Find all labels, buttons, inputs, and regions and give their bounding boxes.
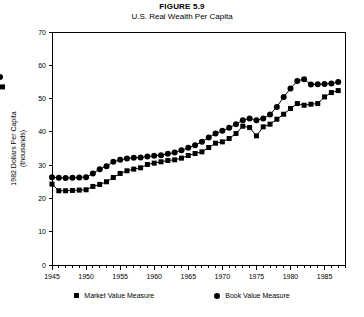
chart-legend: Market Value Measure Book Value Measure bbox=[0, 292, 364, 299]
x-axis-tick-label: 1950 bbox=[78, 273, 94, 280]
circle-marker-icon bbox=[253, 117, 259, 123]
circle-marker-icon bbox=[117, 157, 123, 163]
square-marker-icon bbox=[315, 101, 320, 106]
circle-marker-icon bbox=[322, 81, 328, 87]
circle-marker-icon bbox=[287, 86, 293, 92]
square-marker-icon bbox=[90, 184, 95, 189]
square-marker-icon bbox=[240, 124, 245, 129]
y-axis-title-line1: 1982 Dollars Per Capita bbox=[10, 111, 18, 185]
square-marker-icon bbox=[74, 293, 79, 298]
x-axis-tick-label: 1955 bbox=[112, 273, 128, 280]
square-marker-icon bbox=[70, 188, 75, 193]
circle-marker-icon bbox=[247, 116, 253, 122]
square-marker-icon bbox=[302, 103, 307, 108]
circle-marker-icon bbox=[219, 128, 225, 134]
x-axis-tick-label: 1985 bbox=[317, 273, 333, 280]
circle-marker-icon bbox=[335, 79, 341, 85]
square-marker-icon bbox=[261, 124, 266, 129]
square-marker-icon bbox=[288, 106, 293, 111]
circle-marker-icon bbox=[49, 174, 55, 180]
square-marker-icon bbox=[295, 101, 300, 106]
y-axis-tick-label: 70 bbox=[38, 29, 46, 36]
circle-marker-icon bbox=[199, 139, 205, 145]
square-marker-icon bbox=[227, 136, 232, 141]
circle-marker-icon bbox=[69, 175, 75, 181]
circle-marker-icon bbox=[178, 147, 184, 153]
legend-label-market-value: Market Value Measure bbox=[84, 292, 154, 299]
y-axis-tick-label: 0 bbox=[42, 262, 46, 269]
square-marker-icon bbox=[145, 162, 150, 167]
circle-marker-icon bbox=[104, 163, 110, 169]
circle-marker-icon bbox=[131, 155, 137, 161]
circle-marker-icon bbox=[90, 170, 96, 176]
series-line-book-value bbox=[52, 79, 338, 178]
circle-marker-icon bbox=[260, 116, 266, 122]
circle-marker-icon bbox=[63, 175, 69, 181]
square-marker-icon bbox=[220, 139, 225, 144]
square-marker-icon bbox=[281, 112, 286, 117]
y-axis-title-line2: (thousands) bbox=[19, 130, 27, 167]
square-marker-icon bbox=[336, 88, 341, 93]
y-axis-tick-label: 60 bbox=[38, 62, 46, 69]
circle-marker-icon bbox=[158, 152, 164, 158]
square-marker-icon bbox=[233, 131, 238, 136]
circle-marker-icon bbox=[274, 104, 280, 110]
square-marker-icon bbox=[193, 151, 198, 156]
circle-marker-icon bbox=[328, 81, 334, 87]
x-axis-tick-label: 1945 bbox=[44, 273, 60, 280]
square-marker-icon bbox=[254, 133, 259, 138]
circle-marker-icon bbox=[308, 82, 314, 88]
square-marker-icon bbox=[131, 167, 136, 172]
circle-marker-icon bbox=[124, 155, 130, 161]
square-marker-icon bbox=[56, 188, 61, 193]
circle-marker-icon bbox=[144, 153, 150, 159]
square-marker-icon bbox=[172, 157, 177, 162]
square-marker-icon bbox=[63, 188, 68, 193]
square-marker-icon bbox=[0, 84, 5, 89]
circle-marker-icon bbox=[0, 74, 3, 80]
circle-marker-icon bbox=[138, 154, 144, 160]
circle-marker-icon bbox=[185, 145, 191, 151]
circle-marker-icon bbox=[213, 131, 219, 137]
circle-marker-icon bbox=[83, 174, 89, 180]
circle-marker-icon bbox=[267, 112, 273, 118]
square-marker-icon bbox=[213, 141, 218, 146]
square-marker-icon bbox=[124, 168, 129, 173]
chart-plot-area: 0102030405060701945195019551960196519701… bbox=[0, 0, 364, 317]
square-marker-icon bbox=[50, 182, 55, 187]
legend-label-book-value: Book Value Measure bbox=[225, 292, 289, 299]
square-marker-icon bbox=[329, 90, 334, 95]
circle-marker-icon bbox=[226, 125, 232, 131]
x-axis-tick-label: 1970 bbox=[215, 273, 231, 280]
square-marker-icon bbox=[186, 153, 191, 158]
circle-marker-icon bbox=[97, 166, 103, 172]
square-marker-icon bbox=[179, 156, 184, 161]
circle-marker-icon bbox=[206, 135, 212, 141]
square-marker-icon bbox=[322, 94, 327, 99]
square-marker-icon bbox=[268, 122, 273, 127]
x-axis-tick-label: 1975 bbox=[249, 273, 265, 280]
square-marker-icon bbox=[111, 175, 116, 180]
circle-marker-icon bbox=[165, 151, 171, 157]
figure-container: FIGURE 5.9 U.S. Real Wealth Per Capita 0… bbox=[0, 0, 364, 317]
y-axis-tick-label: 10 bbox=[38, 228, 46, 235]
square-marker-icon bbox=[206, 145, 211, 150]
axis-layer: 0102030405060701945195019551960196519701… bbox=[10, 29, 345, 281]
square-marker-icon bbox=[138, 165, 143, 170]
legend-item-book-value: Book Value Measure bbox=[214, 292, 289, 299]
square-marker-icon bbox=[152, 161, 157, 166]
series-layer bbox=[0, 74, 341, 193]
square-marker-icon bbox=[165, 158, 170, 163]
square-marker-icon bbox=[274, 117, 279, 122]
circle-marker-icon bbox=[192, 142, 198, 148]
axis-frame bbox=[52, 32, 345, 265]
y-axis-tick-label: 50 bbox=[38, 95, 46, 102]
circle-marker-icon bbox=[240, 117, 246, 123]
square-marker-icon bbox=[97, 182, 102, 187]
square-marker-icon bbox=[104, 179, 109, 184]
y-axis-tick-label: 20 bbox=[38, 195, 46, 202]
x-axis-tick-label: 1965 bbox=[180, 273, 196, 280]
legend-item-market-value: Market Value Measure bbox=[74, 292, 154, 299]
square-marker-icon bbox=[308, 102, 313, 107]
circle-marker-icon bbox=[172, 149, 178, 155]
